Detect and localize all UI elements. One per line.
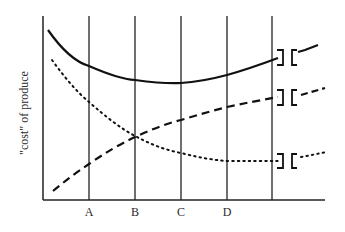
cost-diagram: A B C D "cost" of produce <box>0 0 345 232</box>
break-bracket-left-solid <box>292 50 297 65</box>
x-tick-c: C <box>177 205 185 219</box>
solid-curve <box>48 30 278 83</box>
dotted-curve <box>52 60 278 161</box>
axis-break-brackets <box>277 50 297 168</box>
break-bracket-left-dashed <box>292 90 297 105</box>
dotted-curve-continued <box>301 152 327 157</box>
dashed-curve <box>53 97 278 191</box>
solid-curve-continued <box>298 45 318 52</box>
x-tick-a: A <box>85 205 94 219</box>
break-bracket-right-solid <box>277 50 283 65</box>
y-axis-label: "cost" of produce <box>17 71 31 155</box>
x-tick-b: B <box>131 205 139 219</box>
break-bracket-left-dotted <box>292 154 297 168</box>
dashed-curve-continued <box>301 88 325 95</box>
x-tick-d: D <box>223 205 232 219</box>
vertical-gridlines <box>89 16 272 200</box>
